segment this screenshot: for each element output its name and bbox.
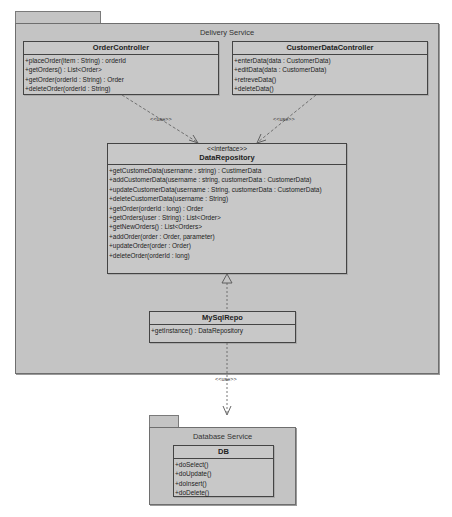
- operation: +getInstance() : DataRepository: [151, 326, 294, 335]
- operation: +placeOrder(item : String) : orderId: [25, 56, 217, 65]
- operation: +getNewOrders() : List<Orders>: [109, 222, 345, 231]
- operation: +getOrders(user : String) : List<Order>: [109, 213, 345, 222]
- operation: +updateOrder(order : Order): [109, 241, 345, 250]
- operation: +getOrder(orderId : String) : Order: [25, 75, 217, 84]
- operation: +doDelete(): [175, 488, 272, 497]
- operation: +doUpdate(): [175, 469, 272, 478]
- operation: +getOrder(orderId : long) : Order: [109, 204, 345, 213]
- operation: +doSelect(): [175, 460, 272, 469]
- operation: +updateCustomerData(username : String, c…: [109, 185, 345, 194]
- delivery-service-title: Delivery Service: [16, 28, 438, 37]
- use-label-order: <<use>>: [150, 116, 172, 122]
- mysql-repo-class[interactable]: MySqlRepo +getInstance() : DataRepositor…: [149, 311, 296, 343]
- order-controller-operations: +placeOrder(item : String) : orderId +ge…: [24, 55, 218, 95]
- use-label-db: <<use>>: [215, 376, 237, 382]
- use-label-customer: <<use>>: [273, 116, 295, 122]
- operation: +deleteData(): [234, 84, 426, 93]
- data-repository-header: <<interface>> DataRepository: [108, 144, 346, 165]
- operation: +doInsert(): [175, 479, 272, 488]
- operation: +deleteOrder(orderId : String): [25, 84, 217, 93]
- operation: +enterData(data : CustomerData): [234, 56, 426, 65]
- data-repository-operations: +getCustomeData(username : string) : Cus…: [108, 165, 346, 261]
- operation: +getCustomeData(username : string) : Cus…: [109, 166, 345, 175]
- data-repository-interface[interactable]: <<interface>> DataRepository +getCustome…: [107, 143, 347, 274]
- operation: +editData(data : CustomerData): [234, 65, 426, 74]
- operation: +getOrders() : List<Order>: [25, 65, 217, 74]
- customer-data-controller-operations: +enterData(data : CustomerData) +editDat…: [233, 55, 427, 95]
- customer-data-controller-name: CustomerDataController: [233, 42, 427, 55]
- database-service-title: Database Service: [150, 432, 295, 441]
- operation: +deleteCustomerData(username : String): [109, 194, 345, 203]
- mysql-repo-operations: +getInstance() : DataRepository: [150, 325, 295, 336]
- db-class[interactable]: DB +doSelect() +doUpdate() +doInsert() +…: [173, 445, 274, 497]
- data-repository-name: DataRepository: [199, 153, 254, 162]
- order-controller-class[interactable]: OrderController +placeOrder(item : Strin…: [23, 41, 219, 95]
- db-operations: +doSelect() +doUpdate() +doInsert() +doD…: [174, 459, 273, 499]
- operation: +addOrder(order : Order, parameter): [109, 232, 345, 241]
- mysql-repo-name: MySqlRepo: [150, 312, 295, 325]
- operation: +retreveData(): [234, 75, 426, 84]
- order-controller-name: OrderController: [24, 42, 218, 55]
- db-name: DB: [174, 446, 273, 459]
- operation: +addCustomerData(username : string, cust…: [109, 175, 345, 184]
- operation: +deleteOrder(orderId : long): [109, 251, 345, 260]
- interface-stereotype: <<interface>>: [108, 145, 346, 153]
- customer-data-controller-class[interactable]: CustomerDataController +enterData(data :…: [232, 41, 428, 95]
